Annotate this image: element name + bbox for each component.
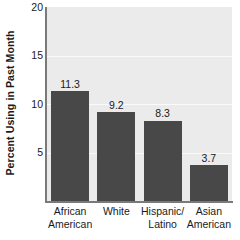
y-axis-title: Percent Using in Past Month xyxy=(0,0,20,205)
y-tick-label-5: 5 xyxy=(18,147,43,158)
bar-1: 11.3 xyxy=(51,7,89,201)
bar-value-label-4: 3.7 xyxy=(190,152,228,164)
bar-2: 9.2 xyxy=(97,7,135,201)
y-tick-label-10: 10 xyxy=(18,99,43,110)
bar-rect-4 xyxy=(190,165,228,201)
y-tick-label-15: 15 xyxy=(18,50,43,61)
bar-value-label-2: 9.2 xyxy=(97,99,135,111)
x-tick-label-line2-1: American xyxy=(41,218,99,231)
y-axis-tick-labels: 20 15 10 5 xyxy=(18,0,43,205)
bar-chart-figure: Percent Using in Past Month 20 15 10 5 1… xyxy=(0,0,240,240)
bar-3: 8.3 xyxy=(144,7,182,201)
bar-value-label-3: 8.3 xyxy=(144,107,182,119)
x-tick-label-line2-4: American xyxy=(180,218,238,231)
x-tick-label-line1-1: African xyxy=(54,205,87,217)
x-tick-label-line1-2: White xyxy=(103,205,130,217)
bar-rect-3 xyxy=(144,121,182,202)
bar-rect-1 xyxy=(51,91,89,201)
y-tick-label-20: 20 xyxy=(18,2,43,13)
bar-4: 3.7 xyxy=(190,7,228,201)
bar-value-label-1: 11.3 xyxy=(51,78,89,90)
x-tick-label-4: AsianAmerican xyxy=(180,205,238,230)
y-axis-title-text: Percent Using in Past Month xyxy=(4,30,16,175)
bar-rect-2 xyxy=(97,112,135,201)
x-tick-label-line1-3: Hispanic/ xyxy=(141,205,184,217)
x-axis-line xyxy=(45,201,233,203)
bars-layer: 11.39.28.33.7 xyxy=(47,7,232,201)
x-tick-label-line1-4: Asian xyxy=(196,205,222,217)
x-axis-tick-labels: AfricanAmericanWhiteHispanic/LatinoAsian… xyxy=(47,205,232,240)
